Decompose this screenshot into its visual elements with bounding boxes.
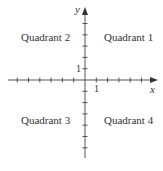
y-unit-label: 1 — [76, 63, 81, 74]
quadrant-1-label: Quadrant 1 — [104, 31, 153, 43]
x-unit-label: 1 — [94, 83, 99, 94]
y-axis-arrow-icon — [82, 7, 88, 15]
axes-graphic — [0, 0, 163, 171]
y-axis — [82, 7, 88, 158]
quadrant-3-label: Quadrant 3 — [21, 114, 70, 126]
x-axis-label: x — [150, 83, 155, 95]
quadrant-4-label: Quadrant 4 — [104, 114, 153, 126]
quadrant-2-label: Quadrant 2 — [21, 31, 70, 43]
x-axis — [8, 77, 158, 83]
y-axis-label: y — [75, 3, 80, 15]
coordinate-plane-diagram: y x 1 1 Quadrant 2 Quadrant 1 Quadrant 3… — [0, 0, 163, 171]
